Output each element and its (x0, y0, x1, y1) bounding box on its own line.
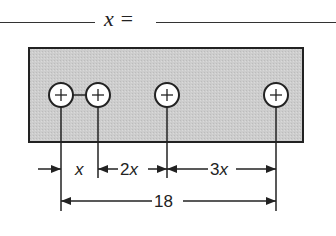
hole-spacing-diagram: x 2x 3x 18 (0, 0, 336, 236)
hole-4 (264, 83, 288, 107)
dim-total-label: 18 (154, 192, 173, 211)
dim-x-label: x (74, 160, 84, 179)
hole-2 (86, 83, 110, 107)
dim-2x-text: 2 (120, 160, 129, 179)
dim-3x-text: 3 (210, 160, 219, 179)
dim-3x-label: 3x (210, 160, 228, 179)
dim-2x-label: 2x (120, 160, 138, 179)
dim-total-text: 18 (154, 192, 173, 211)
hole-1 (49, 83, 73, 107)
hole-3 (155, 83, 179, 107)
